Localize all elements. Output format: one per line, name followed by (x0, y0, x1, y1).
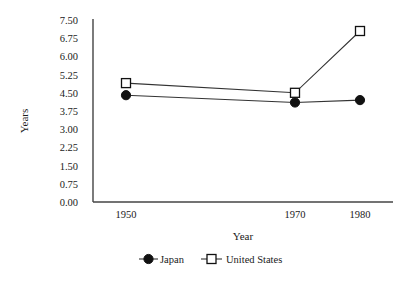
data-point-united-states-1950[interactable] (122, 79, 131, 88)
series-line-united-states (126, 31, 360, 93)
ytick-label: 2.25 (60, 142, 78, 153)
ytick-label: 0.75 (60, 179, 78, 190)
chart-page: 7.50 6.75 6.00 5.25 4.50 3.75 3.00 2.25 … (0, 0, 420, 282)
y-axis-title: Years (18, 109, 30, 134)
xtick-label: 1980 (350, 209, 371, 220)
legend-item-united-states[interactable]: United States (201, 254, 282, 265)
legend-label-japan: Japan (160, 254, 185, 265)
ytick-label: 4.50 (60, 88, 78, 99)
legend-marker-filled-circle-icon (144, 254, 153, 263)
data-point-united-states-1980[interactable] (356, 27, 365, 36)
ytick-label: 7.50 (60, 15, 78, 26)
ytick-label: 0.00 (60, 197, 78, 208)
data-point-japan-1970[interactable] (290, 98, 299, 107)
data-point-united-states-1970[interactable] (291, 88, 300, 97)
ytick-label: 3.75 (60, 106, 78, 117)
line-chart: 7.50 6.75 6.00 5.25 4.50 3.75 3.00 2.25 … (0, 0, 420, 282)
legend-item-japan[interactable]: Japan (139, 254, 185, 265)
legend-label-united-states: United States (226, 254, 282, 265)
ytick-label: 1.50 (60, 161, 78, 172)
ytick-label: 5.25 (60, 70, 78, 81)
xtick-label: 1970 (285, 209, 306, 220)
data-point-japan-1950[interactable] (121, 91, 130, 100)
data-point-japan-1980[interactable] (355, 96, 364, 105)
ytick-label: 6.00 (60, 51, 78, 62)
legend-marker-open-square-icon (207, 255, 216, 264)
ytick-label: 6.75 (60, 33, 78, 44)
xtick-label: 1950 (116, 209, 137, 220)
x-axis-title: Year (233, 230, 254, 242)
series-line-japan (126, 95, 360, 102)
ytick-label: 3.00 (60, 124, 78, 135)
legend: Japan United States (139, 254, 282, 265)
